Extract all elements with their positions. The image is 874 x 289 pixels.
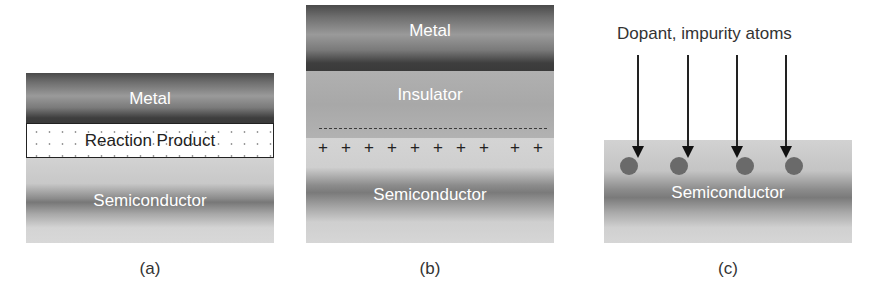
arrow-down-icon [682,146,694,158]
arrow-down-icon [632,146,644,158]
insulator-label: Insulator [397,85,462,105]
arrow-down-icon [731,146,743,158]
semiconductor-label-a: Semiconductor [93,191,206,211]
caption-c: (c) [718,259,738,279]
dopant-atom [785,157,803,175]
semiconductor-label-b: Semiconductor [373,185,486,205]
reaction-product-layer: Reaction Product [26,123,274,158]
positive-charge: + [510,139,520,156]
dopant-atom [670,157,688,175]
positive-charge: + [533,139,543,156]
arrow-shaft [785,55,787,155]
positive-charge: + [479,139,489,156]
positive-charge: + [387,139,397,156]
reaction-product-label: Reaction Product [85,131,215,151]
negative-charge-line [319,128,547,129]
positive-charge: + [410,139,420,156]
semiconductor-label-c: Semiconductor [671,183,784,203]
positive-charge: + [364,139,374,156]
metal-label-b: Metal [409,21,451,41]
caption-a: (a) [140,259,161,279]
arrow-down-icon [780,146,792,158]
dopant-title: Dopant, impurity atoms [617,24,792,44]
semiconductor-layer-a: Semiconductor [26,158,274,243]
positive-charge: + [341,139,351,156]
positive-charge: + [456,139,466,156]
arrow-shaft [736,55,738,155]
arrow-shaft [687,55,689,155]
metal-label-a: Metal [129,89,171,109]
positive-charge: + [433,139,443,156]
dopant-atom [620,157,638,175]
dopant-atom [736,157,754,175]
caption-b: (b) [420,259,441,279]
arrow-shaft [637,55,639,155]
positive-charge: + [318,139,328,156]
metal-layer-b: Metal [306,5,554,71]
metal-layer-a: Metal [26,73,274,124]
